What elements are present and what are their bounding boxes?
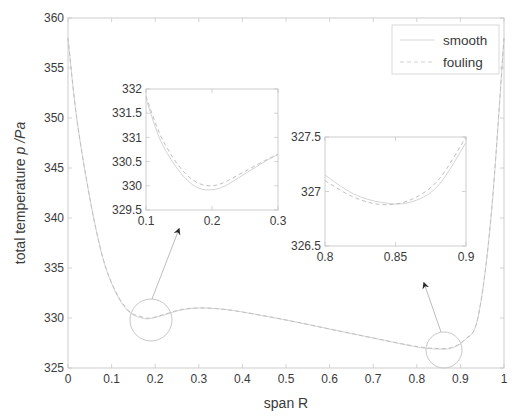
main-x-tick-label: 0.3 [190,372,207,386]
legend: smooth fouling [392,25,499,74]
main-x-tick-label: 0.5 [278,372,295,386]
main-x-tick-label: 0.9 [452,372,469,386]
main-x-tick-label: 0.2 [147,372,164,386]
inset-1-y-tick-label: 330.5 [112,155,142,169]
main-x-tick-label: 0.4 [234,372,251,386]
inset-1-y-tick-label: 331 [122,131,142,145]
main-y-tick-label: 355 [44,61,64,75]
main-y-tick-label: 360 [44,11,64,25]
main-y-tick-label: 340 [44,211,64,225]
x-axis-label: span R [264,395,308,411]
inset-1-x-tick-label: 0.3 [270,214,287,228]
legend-label-smooth: smooth [443,33,487,48]
main-y-tick-label: 325 [44,361,64,375]
inset-2-x-tick-label: 0.9 [458,250,475,264]
main-y-tick-label: 350 [44,111,64,125]
line-chart: 00.10.20.30.40.50.60.70.80.9132533033534… [0,0,513,420]
main-y-tick-label: 345 [44,161,64,175]
main-x-tick-label: 0.6 [321,372,338,386]
y-axis-label-unit: p /Pa [12,122,28,156]
inset-2-frame [325,137,466,246]
main-x-tick-label: 1 [501,372,508,386]
inset-1-y-tick-label: 332 [122,82,142,96]
inset-2-y-tick-label: 327 [301,185,321,199]
main-x-tick-label: 0 [65,372,72,386]
main-x-tick-label: 0.8 [408,372,425,386]
y-axis-label: total temperature p /Pa [12,122,28,265]
main-x-tick-label: 0.1 [103,372,120,386]
y-axis-label-prefix: total temperature [12,154,28,264]
inset-2-y-tick-label: 327.5 [291,130,321,144]
main-y-tick-label: 335 [44,261,64,275]
inset-1-y-tick-label: 329.5 [112,203,142,217]
inset-1-y-tick-label: 330 [122,179,142,193]
inset-1-y-tick-label: 331.5 [112,106,142,120]
main-x-tick-label: 0.7 [365,372,382,386]
legend-label-fouling: fouling [443,55,483,70]
inset-2-x-tick-label: 0.85 [384,250,408,264]
inset-2-y-tick-label: 326.5 [291,239,321,253]
inset-1-x-tick-label: 0.2 [204,214,221,228]
main-y-tick-label: 330 [44,311,64,325]
inset-1-frame [146,89,278,210]
